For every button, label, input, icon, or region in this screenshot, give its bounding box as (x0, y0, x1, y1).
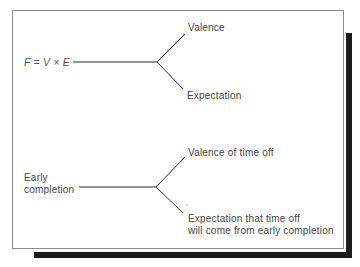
early-completion-label-line2: completion (24, 184, 74, 196)
expectation-time-off-label-line1: Expectation that time off (188, 213, 300, 225)
valence-label: Valence (188, 22, 225, 34)
formula-label: F = V × E (24, 56, 70, 68)
stray-dot (186, 204, 187, 205)
top-lower-branch-line (157, 62, 183, 89)
expectation-time-off-label-line2: will come from early completion (188, 225, 334, 237)
expectation-label: Expectation (187, 90, 241, 102)
valence-of-time-off-label: Valence of time off (188, 147, 274, 159)
early-completion-label-line1: Early (24, 172, 48, 184)
bottom-upper-branch-line (156, 157, 185, 187)
top-upper-branch-line (157, 34, 185, 62)
bottom-lower-branch-line (156, 187, 183, 213)
